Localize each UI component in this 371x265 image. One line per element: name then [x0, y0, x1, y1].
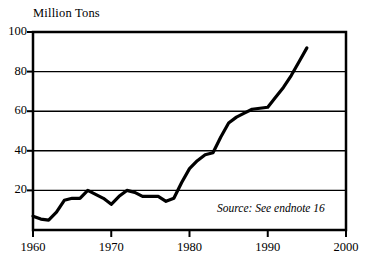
x-tick-label: 1990	[247, 240, 289, 255]
y-tick-label: 80	[1, 64, 27, 79]
y-tick-label: 60	[1, 103, 27, 118]
x-tick-label: 1980	[169, 240, 211, 255]
x-tick-label: 1960	[12, 240, 54, 255]
chart-figure: Million Tons 20406080100 196019701980199…	[0, 0, 371, 265]
gridlines	[33, 72, 346, 191]
data-series-line	[33, 48, 307, 220]
x-tick-label: 2000	[325, 240, 367, 255]
source-annotation: Source: See endnote 16	[217, 202, 325, 214]
y-tick-label: 100	[1, 24, 27, 39]
x-tick-label: 1970	[90, 240, 132, 255]
y-tick-label: 20	[1, 182, 27, 197]
line-chart-plot	[0, 0, 371, 265]
y-tick-label: 40	[1, 143, 27, 158]
